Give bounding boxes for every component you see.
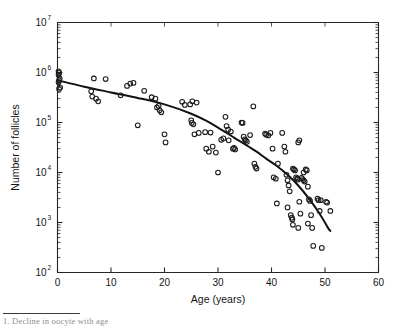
- y-tick-label-exp-2: 4: [48, 164, 52, 171]
- x-tick-label-40: 40: [266, 277, 278, 288]
- x-tick-label-0: 0: [55, 277, 61, 288]
- y-tick-label-exp-0: 2: [48, 264, 52, 271]
- x-axis-title: Age (years): [191, 293, 245, 305]
- y-tick-label-exp-1: 3: [48, 214, 52, 221]
- y-tick-label-base-2: 10: [35, 167, 47, 178]
- x-tick-label-30: 30: [212, 277, 224, 288]
- x-tick-label-10: 10: [105, 277, 117, 288]
- x-tick-label-60: 60: [373, 277, 385, 288]
- y-tick-label-base-0: 10: [35, 267, 47, 278]
- y-tick-label-exp-4: 6: [48, 64, 52, 71]
- y-tick-label-base-5: 10: [35, 17, 47, 28]
- y-tick-label-base-1: 10: [35, 217, 47, 228]
- y-tick-label-exp-3: 5: [48, 114, 52, 121]
- caption-rule: [3, 313, 80, 314]
- follicle-count-scatter-chart: 0102030405060102103104105106107Age (year…: [0, 0, 399, 328]
- x-tick-label-50: 50: [319, 277, 331, 288]
- y-axis-title: Number of follicles: [9, 104, 21, 190]
- y-tick-label-exp-5: 7: [48, 14, 52, 21]
- y-tick-label-base-3: 10: [35, 117, 47, 128]
- figure-caption: 1. Decline in oocyte with age: [3, 316, 253, 327]
- x-tick-label-20: 20: [159, 277, 171, 288]
- y-tick-label-base-4: 10: [35, 67, 47, 78]
- figure-container: 0102030405060102103104105106107Age (year…: [0, 0, 399, 328]
